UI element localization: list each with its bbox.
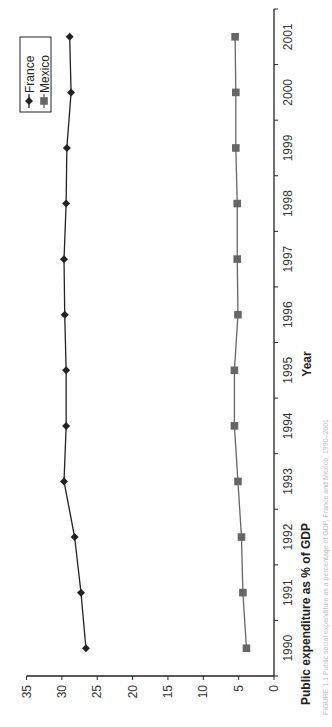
legend-label-mexico: Mexico: [38, 55, 52, 93]
square-marker-icon: [231, 33, 239, 41]
x-tick-label: 1998: [281, 190, 295, 217]
x-axis-title: Year: [300, 351, 314, 377]
legend-label-france: France: [23, 55, 37, 93]
square-marker-icon: [232, 89, 240, 97]
diamond-marker-icon: [62, 366, 70, 374]
legend-square-icon: [40, 97, 48, 105]
y-tick-label: 10: [196, 685, 210, 699]
y-tick-label: 30: [55, 685, 69, 699]
x-tick-label: 1997: [281, 245, 295, 272]
line-chart: 1990199119921993199419951996199719981999…: [0, 0, 332, 727]
square-marker-icon: [233, 255, 241, 263]
square-marker-icon: [233, 200, 241, 208]
diamond-marker-icon: [60, 255, 68, 263]
chart-series: [60, 33, 250, 652]
x-tick-label: 2001: [281, 23, 295, 50]
x-tick-label: 1992: [281, 523, 295, 550]
x-tick-label: 1991: [281, 579, 295, 606]
x-tick-label: 1994: [281, 412, 295, 439]
diamond-marker-icon: [82, 644, 90, 652]
series-line-mexico: [234, 37, 246, 648]
diamond-marker-icon: [66, 33, 74, 41]
square-marker-icon: [234, 311, 242, 319]
x-tick-label: 1993: [281, 468, 295, 495]
figure-caption: FIGURE 1.1 Public social expenditure as …: [322, 419, 330, 715]
y-tick-label: 0: [267, 685, 281, 692]
y-tick-label: 5: [232, 685, 246, 692]
diamond-marker-icon: [62, 200, 70, 208]
diamond-marker-icon: [77, 589, 85, 597]
square-marker-icon: [231, 422, 239, 430]
x-tick-label: 1999: [281, 134, 295, 161]
x-tick-label: 1990: [281, 635, 295, 662]
y-tick-label: 25: [90, 685, 104, 699]
square-marker-icon: [243, 644, 251, 652]
diamond-marker-icon: [62, 422, 70, 430]
chart-axes: 1990199119921993199419951996199719981999…: [20, 9, 295, 698]
y-tick-label: 35: [20, 685, 34, 699]
diamond-marker-icon: [60, 477, 68, 485]
y-tick-label: 15: [161, 685, 175, 699]
x-tick-label: 1995: [281, 357, 295, 384]
diamond-marker-icon: [63, 144, 71, 152]
y-tick-label: 20: [126, 685, 140, 699]
chart-legend: FranceMexico: [20, 37, 52, 112]
series-line-france: [64, 37, 86, 648]
square-marker-icon: [231, 366, 239, 374]
x-tick-label: 1996: [281, 301, 295, 328]
y-axis-title: Public expenditure as % of GDP: [299, 523, 313, 705]
square-marker-icon: [239, 589, 247, 597]
diamond-marker-icon: [61, 311, 69, 319]
square-marker-icon: [232, 144, 240, 152]
square-marker-icon: [238, 533, 246, 541]
x-tick-label: 2000: [281, 79, 295, 106]
diamond-marker-icon: [67, 88, 75, 96]
square-marker-icon: [234, 478, 242, 486]
diamond-marker-icon: [71, 533, 79, 541]
